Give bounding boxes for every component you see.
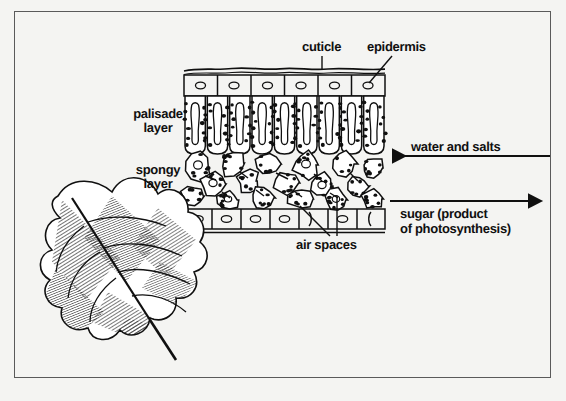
leaf-diagram-figure: cuticle epidermis palisade layer spongy … (0, 0, 566, 401)
spongy-layer (181, 150, 384, 210)
label-spongy-layer: spongy layer (122, 163, 194, 191)
diagram-artwork (0, 0, 566, 401)
label-water-and-salts: water and salts (411, 140, 500, 154)
cuticle-line (184, 68, 385, 75)
label-epidermis: epidermis (367, 40, 426, 54)
label-air-spaces: air spaces (296, 238, 357, 252)
label-cuticle: cuticle (302, 40, 341, 54)
palisade-layer (183, 96, 388, 154)
upper-epidermis (184, 75, 385, 96)
label-sugar: sugar (product of photosynthesis) (400, 206, 511, 236)
leaf-cross-section (181, 68, 388, 233)
label-palisade-layer: palisade layer (122, 107, 194, 135)
air-spaces-leader-1 (300, 206, 330, 236)
lower-epidermis (184, 209, 385, 233)
